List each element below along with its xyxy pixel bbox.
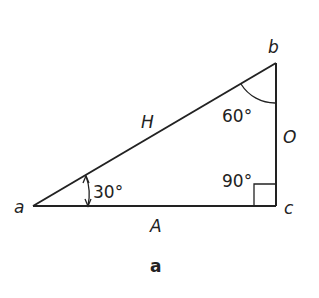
vertex-label-c: c: [284, 198, 294, 218]
angle-label-b: 60°: [222, 106, 252, 126]
right-angle-marker: [254, 184, 276, 206]
angle-label-a: 30°: [93, 182, 123, 202]
figure-caption: a: [150, 256, 161, 276]
angle-arc-b: [241, 84, 276, 103]
side-label-opposite: O: [283, 127, 296, 147]
side-label-adjacent: A: [149, 216, 162, 236]
right-triangle-diagram: a b c H O A 30° 60° 90° a: [0, 0, 319, 298]
angle-label-c: 90°: [222, 171, 252, 191]
side-label-hypotenuse: H: [141, 112, 154, 132]
vertex-label-a: a: [14, 197, 24, 217]
vertex-label-b: b: [268, 37, 279, 57]
